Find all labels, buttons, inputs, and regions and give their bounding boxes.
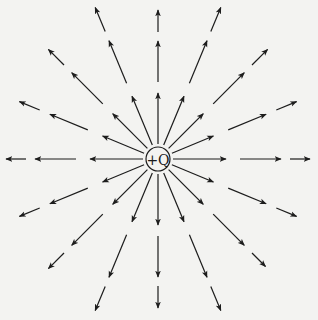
- field-arrow: [211, 287, 221, 311]
- field-arrow: [109, 235, 127, 277]
- field-arrow: [95, 287, 105, 311]
- field-arrow: [132, 96, 152, 145]
- field-arrow: [50, 114, 88, 130]
- field-arrow: [50, 188, 88, 204]
- field-arrow: [19, 208, 39, 216]
- field-arrow: [109, 41, 127, 83]
- field-arrow: [113, 170, 148, 205]
- field-arrow: [213, 73, 244, 104]
- field-arrow: [189, 235, 207, 277]
- field-diagram: +Q: [0, 0, 318, 320]
- field-arrow: [228, 114, 266, 130]
- field-arrow: [276, 102, 296, 110]
- field-arrow: [48, 253, 64, 269]
- field-arrow: [213, 214, 244, 245]
- field-arrow: [211, 8, 221, 32]
- field-arrow: [72, 73, 103, 104]
- field-arrow: [252, 49, 268, 65]
- field-arrow: [189, 41, 207, 83]
- field-arrow: [19, 102, 39, 110]
- field-arrow: [132, 173, 152, 222]
- field-arrow: [113, 114, 148, 149]
- field-arrow: [276, 208, 296, 216]
- field-arrow: [72, 214, 103, 245]
- field-arrow: [164, 96, 184, 145]
- field-arrow: [48, 49, 64, 65]
- field-arrow: [228, 188, 266, 204]
- charge-label: +Q: [146, 152, 169, 168]
- point-charge: +Q: [146, 147, 170, 171]
- field-arrow: [169, 114, 204, 149]
- field-arrow: [169, 170, 204, 205]
- field-arrow: [252, 253, 266, 267]
- field-arrow: [95, 8, 105, 32]
- field-arrow: [164, 173, 184, 222]
